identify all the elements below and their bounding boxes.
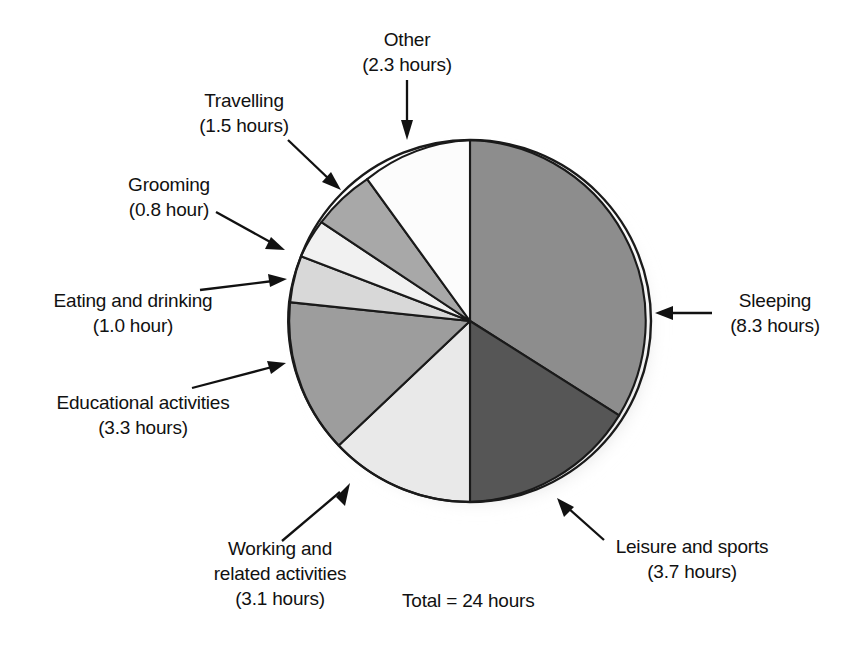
pie-chart-figure: Other (2.3 hours) Travelling (1.5 hours)… bbox=[0, 0, 848, 645]
arrow-line-working bbox=[282, 492, 340, 541]
label-eating-value: (1.0 hour) bbox=[24, 313, 242, 338]
label-sleeping-value: (8.3 hours) bbox=[706, 313, 844, 338]
label-educational-activities: Educational activities (3.3 hours) bbox=[20, 390, 266, 440]
arrow-head-eating bbox=[268, 274, 287, 287]
label-working-name-line1: Working and bbox=[176, 536, 384, 561]
label-grooming: Grooming (0.8 hour) bbox=[88, 172, 250, 222]
label-leisure-name: Leisure and sports bbox=[586, 534, 798, 559]
arrow-head-educational bbox=[267, 361, 286, 374]
label-travelling: Travelling (1.5 hours) bbox=[155, 88, 333, 138]
arrow-line-travelling bbox=[288, 140, 330, 180]
arrow-head-grooming bbox=[265, 237, 285, 250]
arrow-head-other bbox=[401, 120, 413, 140]
label-working-and-related-activities: Working and related activities (3.1 hour… bbox=[176, 536, 384, 611]
label-leisure-value: (3.7 hours) bbox=[586, 559, 798, 584]
label-leisure-and-sports: Leisure and sports (3.7 hours) bbox=[586, 534, 798, 584]
label-other: Other (2.3 hours) bbox=[336, 27, 478, 77]
label-eating-and-drinking: Eating and drinking (1.0 hour) bbox=[24, 288, 242, 338]
label-sleeping-name: Sleeping bbox=[706, 288, 844, 313]
label-other-name: Other bbox=[336, 27, 478, 52]
label-working-name-line2: related activities bbox=[176, 561, 384, 586]
label-travelling-name: Travelling bbox=[155, 88, 333, 113]
label-educational-value: (3.3 hours) bbox=[20, 415, 266, 440]
label-grooming-value: (0.8 hour) bbox=[88, 197, 250, 222]
label-grooming-name: Grooming bbox=[88, 172, 250, 197]
label-eating-name: Eating and drinking bbox=[24, 288, 242, 313]
label-sleeping: Sleeping (8.3 hours) bbox=[706, 288, 844, 338]
arrow-head-leisure bbox=[557, 498, 574, 517]
label-working-value: (3.1 hours) bbox=[176, 586, 384, 611]
total-label: Total = 24 hours bbox=[402, 590, 535, 612]
label-travelling-value: (1.5 hours) bbox=[155, 113, 333, 138]
label-educational-name: Educational activities bbox=[20, 390, 266, 415]
arrow-line-educational bbox=[192, 367, 272, 388]
label-other-value: (2.3 hours) bbox=[336, 52, 478, 77]
